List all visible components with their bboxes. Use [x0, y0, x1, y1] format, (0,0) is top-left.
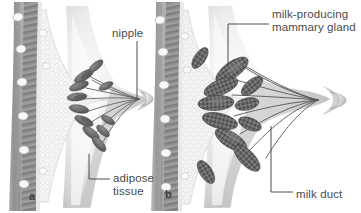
panel-label-a: a [29, 190, 35, 202]
label-mammary-gland-line1: milk-producing [272, 8, 356, 21]
breast-anatomy-figure: nipple milk-producing mammary gland adip… [0, 0, 361, 213]
label-mammary-gland: milk-producing mammary gland [272, 8, 356, 34]
label-mammary-gland-line2: mammary gland [272, 21, 356, 34]
label-adipose-tissue-line2: tissue [113, 185, 154, 198]
label-milk-duct: milk duct [296, 188, 342, 201]
panel-label-b: b [165, 188, 172, 200]
label-nipple: nipple [112, 27, 143, 40]
label-adipose-tissue: adipose tissue [113, 172, 154, 198]
label-adipose-tissue-line1: adipose [113, 172, 154, 185]
